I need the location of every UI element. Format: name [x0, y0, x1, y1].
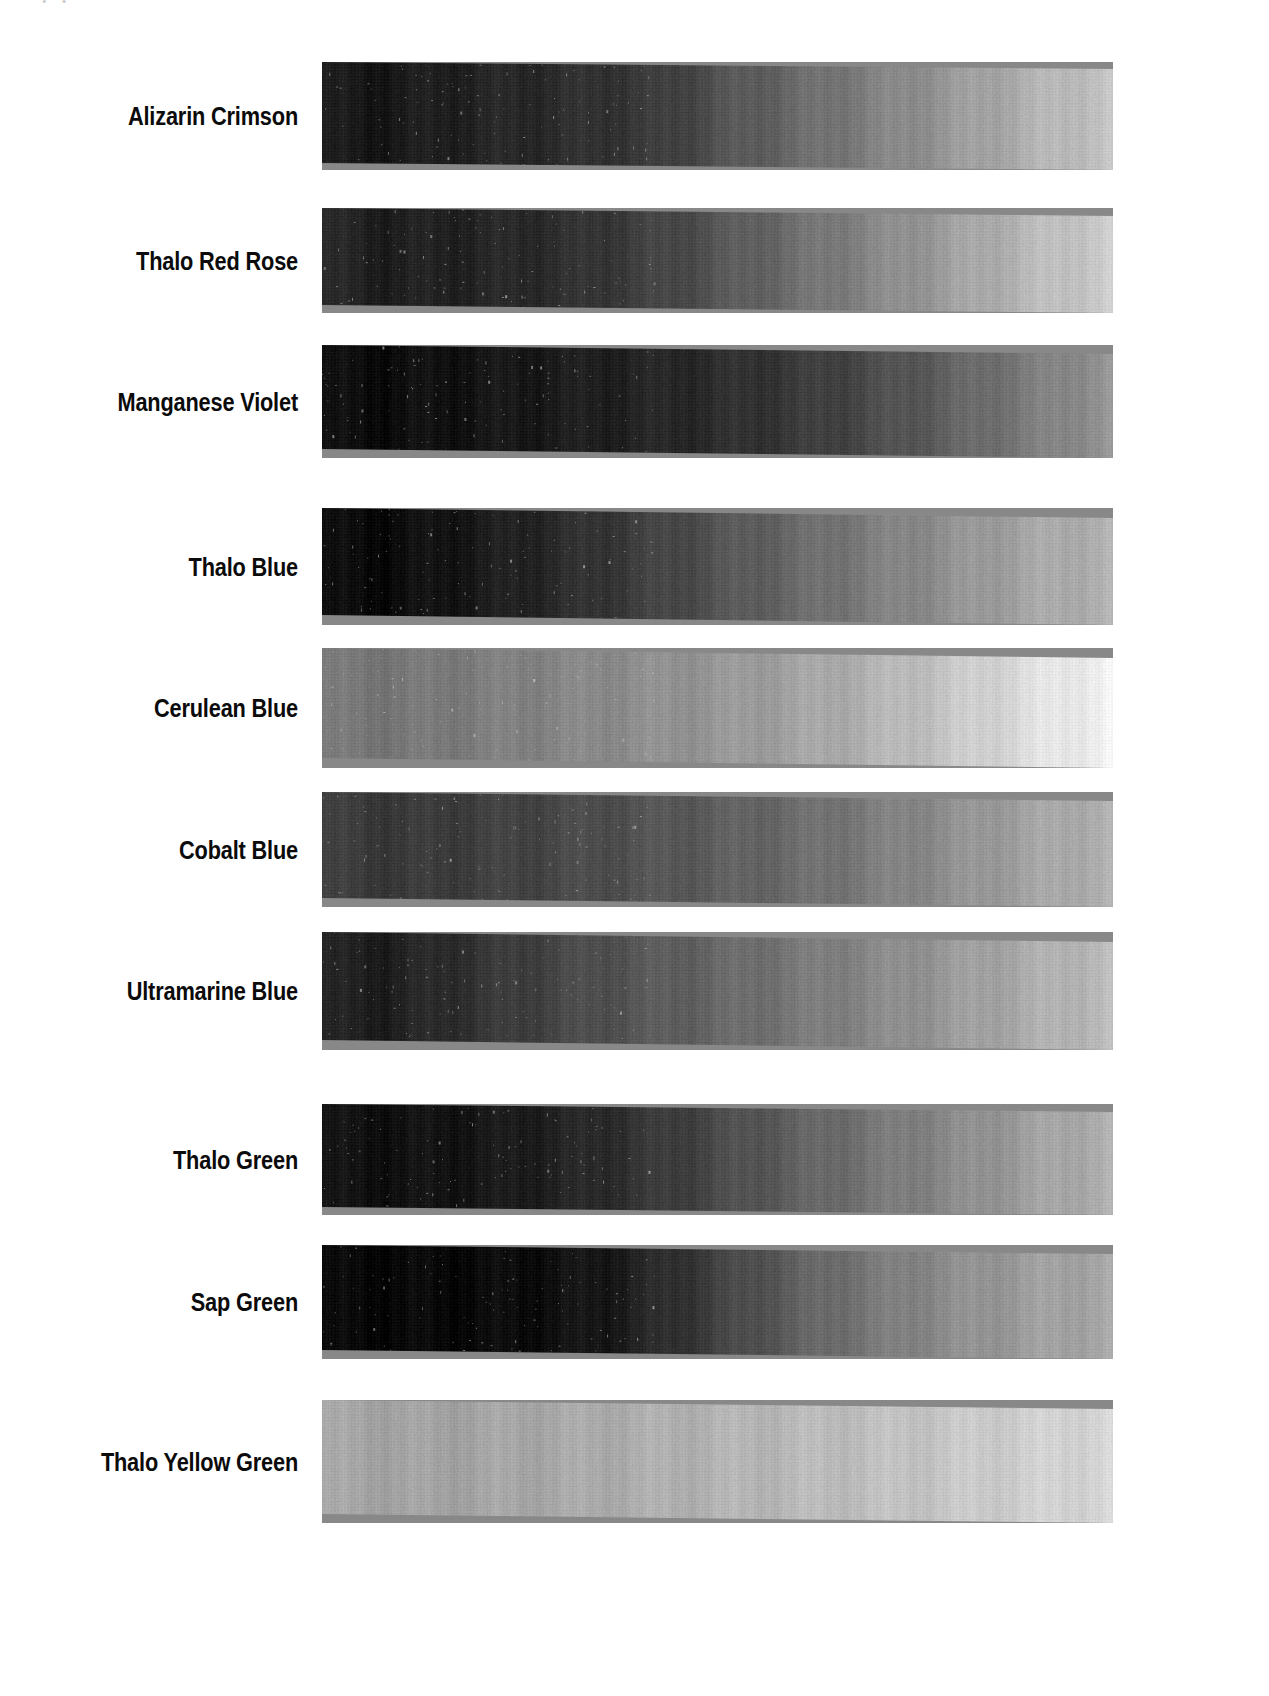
swatch-row: Sap Green: [0, 1245, 1269, 1359]
pigment-value-swatch: [322, 1104, 1113, 1215]
pigment-value-swatch: [322, 648, 1113, 768]
swatch-gradient-canvas: [322, 792, 1113, 907]
pigment-label: Thalo Yellow Green: [54, 1449, 298, 1476]
pigment-value-swatch: [322, 208, 1113, 313]
swatch-gradient-canvas: [322, 208, 1113, 313]
swatch-row: Manganese Violet: [0, 345, 1269, 458]
pigment-label: Ultramarine Blue: [54, 978, 298, 1005]
pigment-label: Thalo Red Rose: [54, 248, 298, 275]
pigment-value-swatch: [322, 345, 1113, 458]
swatch-row: Thalo Red Rose: [0, 208, 1269, 313]
swatch-gradient-canvas: [322, 508, 1113, 625]
pigment-value-swatch: [322, 1400, 1113, 1523]
pigment-label: Alizarin Crimson: [54, 103, 298, 130]
pigment-label: Cobalt Blue: [54, 837, 298, 864]
page-edge-artifact: • •: [42, 0, 72, 10]
pigment-label: Cerulean Blue: [54, 695, 298, 722]
pigment-value-swatch: [322, 1245, 1113, 1359]
pigment-label: Sap Green: [54, 1289, 298, 1316]
swatch-row: Ultramarine Blue: [0, 932, 1269, 1050]
swatch-gradient-canvas: [322, 62, 1113, 170]
swatch-row: Alizarin Crimson: [0, 62, 1269, 170]
swatch-row: Cerulean Blue: [0, 648, 1269, 768]
pigment-value-swatch: [322, 792, 1113, 907]
swatch-gradient-canvas: [322, 1400, 1113, 1523]
pigment-label: Thalo Blue: [54, 554, 298, 581]
swatch-gradient-canvas: [322, 345, 1113, 458]
value-scale-page: • • Alizarin CrimsonThalo Red RoseMangan…: [0, 0, 1269, 1696]
swatch-gradient-canvas: [322, 1104, 1113, 1215]
swatch-row: Cobalt Blue: [0, 792, 1269, 907]
pigment-label: Manganese Violet: [54, 389, 298, 416]
swatch-gradient-canvas: [322, 932, 1113, 1050]
swatch-row: Thalo Green: [0, 1104, 1269, 1215]
pigment-value-swatch: [322, 932, 1113, 1050]
pigment-value-swatch: [322, 62, 1113, 170]
pigment-label: Thalo Green: [54, 1147, 298, 1174]
swatch-gradient-canvas: [322, 648, 1113, 768]
swatch-row: Thalo Yellow Green: [0, 1400, 1269, 1523]
swatch-gradient-canvas: [322, 1245, 1113, 1359]
swatch-row: Thalo Blue: [0, 508, 1269, 625]
pigment-value-swatch: [322, 508, 1113, 625]
